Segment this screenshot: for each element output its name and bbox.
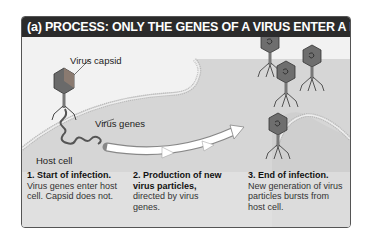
step-1: 1. Start of infection. Virus genes enter…: [27, 170, 131, 202]
step-3-body: New generation of virus particles bursts…: [248, 181, 343, 212]
label-virus-capsid: Virus capsid: [70, 55, 122, 66]
step-2-body: directed by virus genes.: [133, 191, 199, 212]
step-1-body: Virus genes enter host cell. Capsid does…: [27, 181, 117, 202]
panel-label: (a): [27, 20, 42, 34]
diagram-panel: (a) PROCESS: ONLY THE GENES OF A VIRUS E…: [21, 16, 351, 228]
label-virus-genes: Virus genes: [95, 118, 145, 129]
step-2: 2. Production of new virus particles, di…: [133, 170, 225, 212]
virus-infecting: [52, 68, 76, 120]
panel-title: PROCESS: ONLY THE GENES OF A VIRUS ENTER…: [45, 20, 351, 34]
step-1-title: 1. Start of infection.: [27, 170, 111, 180]
step-3-title: 3. End of infection.: [248, 170, 329, 180]
step-3: 3. End of infection. New generation of v…: [248, 170, 346, 212]
panel-header: (a) PROCESS: ONLY THE GENES OF A VIRUS E…: [22, 17, 350, 37]
label-host-cell: Host cell: [36, 155, 72, 166]
step-2-title: 2. Production of new virus particles,: [133, 170, 222, 191]
